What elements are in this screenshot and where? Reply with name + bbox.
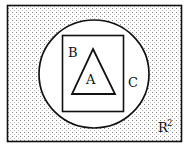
set-diagram-container: B A C R 2	[0, 0, 189, 148]
nested-set-diagram: B A C R 2	[0, 0, 189, 148]
label-c: C	[128, 75, 138, 90]
label-b: B	[68, 45, 78, 60]
label-a: A	[85, 72, 96, 87]
label-r-squared-exponent: 2	[167, 118, 172, 128]
